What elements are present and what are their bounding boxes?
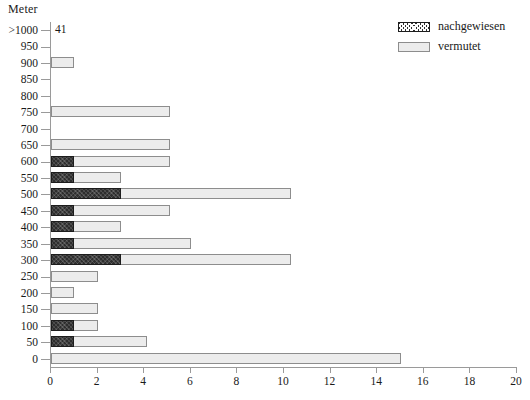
bar-segment-nachgewiesen[interactable] (51, 320, 74, 331)
bar-segment-vermutet[interactable] (51, 287, 74, 298)
x-axis-tick-label: 12 (310, 375, 350, 387)
stacked-bar[interactable] (51, 287, 74, 298)
y-axis-tick-label: 650 (0, 138, 38, 152)
bar-segment-vermutet[interactable] (74, 205, 170, 216)
stacked-bar[interactable] (51, 320, 98, 331)
y-axis-tick (41, 326, 50, 327)
bar-segment-nachgewiesen[interactable] (51, 254, 121, 265)
bar-segment-vermutet[interactable] (74, 221, 121, 232)
y-axis-tick (41, 145, 50, 146)
bar-segment-vermutet[interactable] (121, 188, 291, 199)
x-axis-tick-label: 14 (356, 375, 396, 387)
chart-row: 500 (50, 186, 516, 203)
stacked-bar[interactable] (51, 271, 98, 282)
chart-row: 550 (50, 170, 516, 187)
bar-segment-vermutet[interactable] (51, 271, 98, 282)
stacked-bar[interactable] (51, 238, 191, 249)
stacked-bar[interactable] (51, 172, 121, 183)
x-axis-tick (283, 367, 284, 373)
stacked-bar[interactable] (51, 254, 291, 265)
stacked-bar[interactable] (51, 353, 401, 364)
legend-item-vermutet[interactable]: vermutet (398, 38, 505, 55)
x-axis-tick (516, 367, 517, 373)
x-axis-tick (236, 367, 237, 373)
y-axis-tick-label: 400 (0, 220, 38, 234)
y-axis-tick-label: 900 (0, 56, 38, 70)
chart-row: 350 (50, 236, 516, 253)
bar-segment-vermutet[interactable] (51, 57, 74, 68)
chart-row: 100 (50, 318, 516, 335)
hatched-dark-swatch (398, 22, 430, 32)
stacked-bar[interactable] (51, 106, 170, 117)
chart-row: 250 (50, 268, 516, 285)
x-axis-tick-label: 6 (170, 375, 210, 387)
y-axis-tick-label: 250 (0, 269, 38, 283)
chart-row: 400 (50, 219, 516, 236)
plot-area: >100041950900850800750700650600550500450… (50, 22, 516, 367)
bar-segment-vermutet[interactable] (51, 106, 170, 117)
y-axis-title: Meter (8, 2, 38, 17)
x-axis-tick-label: 20 (496, 375, 530, 387)
x-axis-tick-label: 2 (77, 375, 117, 387)
bar-segment-vermutet[interactable] (74, 172, 121, 183)
chart-row: 150 (50, 301, 516, 318)
bar-segment-vermutet[interactable] (74, 238, 191, 249)
bar-segment-vermutet[interactable] (51, 353, 401, 364)
bar-segment-vermutet[interactable] (51, 139, 170, 150)
bar-segment-nachgewiesen[interactable] (51, 221, 74, 232)
legend-item-nachgewiesen[interactable]: nachgewiesen (398, 18, 505, 35)
light-gray-swatch (398, 42, 430, 52)
y-axis-tick-label: 350 (0, 237, 38, 251)
bar-segment-nachgewiesen[interactable] (51, 205, 74, 216)
x-axis-tick (330, 367, 331, 373)
y-axis-tick (41, 293, 50, 294)
y-axis-tick (41, 211, 50, 212)
y-axis-tick (41, 162, 50, 163)
y-axis-tick (41, 309, 50, 310)
x-axis-tick (376, 367, 377, 373)
bar-segment-vermutet[interactable] (74, 336, 146, 347)
stacked-bar[interactable] (51, 188, 291, 199)
stacked-bar[interactable] (51, 303, 98, 314)
stacked-bar[interactable] (51, 336, 147, 347)
bar-segment-vermutet[interactable] (74, 320, 97, 331)
stacked-bar[interactable] (51, 156, 170, 167)
chart-row: 200 (50, 285, 516, 302)
y-axis-tick-label: 100 (0, 319, 38, 333)
x-axis-tick-label: 18 (449, 375, 489, 387)
y-axis-tick-label: 950 (0, 39, 38, 53)
y-axis-tick (41, 359, 50, 360)
x-axis-tick (50, 367, 51, 373)
bar-segment-nachgewiesen[interactable] (51, 156, 74, 167)
bar-segment-nachgewiesen[interactable] (51, 336, 74, 347)
y-axis-tick-label: 500 (0, 187, 38, 201)
stacked-bar[interactable] (51, 139, 170, 150)
y-axis-tick-label: 800 (0, 89, 38, 103)
stacked-bar[interactable] (51, 57, 74, 68)
bar-segment-nachgewiesen[interactable] (51, 238, 74, 249)
chart-row: 850 (50, 71, 516, 88)
legend: nachgewiesen vermutet (398, 18, 505, 58)
y-axis-tick (41, 277, 50, 278)
stacked-bar[interactable] (51, 221, 121, 232)
y-axis-tick-label: 150 (0, 302, 38, 316)
bar-segment-vermutet[interactable] (51, 303, 98, 314)
x-axis-tick-label: 4 (123, 375, 163, 387)
x-axis-tick (469, 367, 470, 373)
x-axis-tick-label: 8 (216, 375, 256, 387)
chart-row: 450 (50, 203, 516, 220)
bar-segment-nachgewiesen[interactable] (51, 172, 74, 183)
bar-chart: Meter >100041950900850800750700650600550… (0, 0, 530, 400)
stacked-bar[interactable] (51, 205, 170, 216)
chart-row: 600 (50, 153, 516, 170)
y-axis-tick (41, 112, 50, 113)
y-axis-tick (41, 129, 50, 130)
bar-segment-vermutet[interactable] (74, 156, 170, 167)
y-axis-tick-label: 750 (0, 105, 38, 119)
y-axis-tick (41, 244, 50, 245)
chart-row: 50 (50, 334, 516, 351)
x-axis-tick (143, 367, 144, 373)
bar-segment-nachgewiesen[interactable] (51, 188, 121, 199)
bar-segment-vermutet[interactable] (121, 254, 291, 265)
y-axis-tick-label: >1000 (0, 23, 38, 37)
